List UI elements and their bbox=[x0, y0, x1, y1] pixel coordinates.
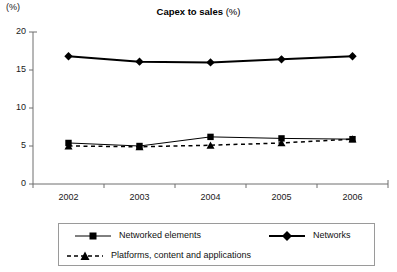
data-point-marker bbox=[206, 58, 214, 66]
data-point-marker bbox=[348, 52, 356, 60]
x-tick-label: 2006 bbox=[342, 192, 362, 202]
legend-item-networked-elements[interactable]: Networked elements bbox=[73, 229, 201, 243]
x-tick-label: 2004 bbox=[200, 192, 220, 202]
data-point-marker bbox=[64, 52, 72, 60]
diamond-marker-icon bbox=[267, 229, 307, 243]
legend-item-networks[interactable]: Networks bbox=[267, 229, 351, 243]
triangle-marker-icon bbox=[65, 249, 105, 263]
plot-area: 05101520 20022003200420052006 bbox=[0, 0, 397, 215]
legend-label-networked-elements: Networked elements bbox=[119, 230, 201, 241]
y-axis: 05101520 bbox=[16, 26, 37, 188]
legend-label-networks: Networks bbox=[313, 230, 351, 241]
series-networks bbox=[64, 52, 356, 66]
legend-label-platforms-content-applications: Platforms, content and applications bbox=[111, 250, 251, 261]
y-tick-label: 15 bbox=[16, 64, 26, 74]
legend-item-platforms-content-applications[interactable]: Platforms, content and applications bbox=[65, 249, 251, 263]
y-tick-label: 5 bbox=[21, 140, 26, 150]
x-tick-label: 2003 bbox=[129, 192, 149, 202]
square-marker-icon bbox=[73, 229, 113, 243]
data-series-group bbox=[64, 52, 356, 150]
data-point-marker bbox=[207, 134, 213, 140]
x-axis: 20022003200420052006 bbox=[33, 180, 388, 202]
legend-row-1: Networked elements Networks bbox=[59, 225, 374, 246]
x-tick-label: 2002 bbox=[58, 192, 78, 202]
capex-to-sales-chart: (%) Capex to sales (%) 05101520 20022003… bbox=[0, 0, 397, 272]
x-tick-label: 2005 bbox=[271, 192, 291, 202]
data-point-marker bbox=[135, 57, 143, 65]
y-tick-label: 10 bbox=[16, 102, 26, 112]
chart-legend: Networked elements Networks Platforms, c… bbox=[58, 223, 375, 266]
y-tick-label: 0 bbox=[21, 178, 26, 188]
legend-row-2: Platforms, content and applications bbox=[59, 245, 374, 266]
data-point-marker bbox=[277, 55, 285, 63]
y-tick-label: 20 bbox=[16, 26, 26, 36]
